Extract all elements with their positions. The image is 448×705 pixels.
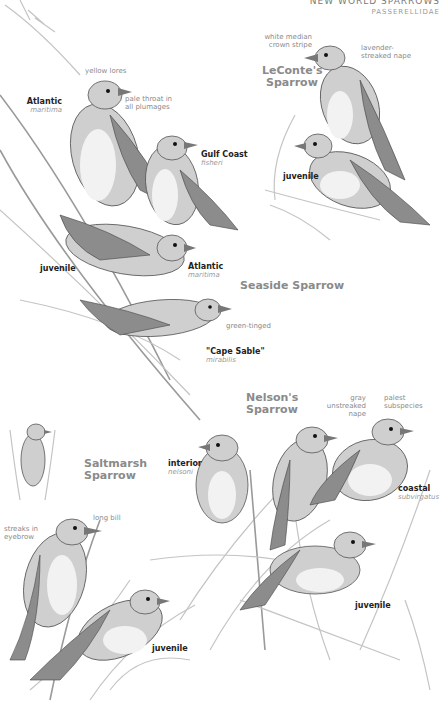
species-title-leconte: LeConte's Sparrow: [262, 65, 323, 89]
label-leconte-juvenile: juvenile: [283, 173, 319, 181]
annotation-green-tinged: green-tinged: [226, 322, 271, 330]
bird-saltmarsh-small: [10, 424, 55, 500]
annotation-palest-subspecies: palest subspecies: [384, 394, 423, 410]
label-seaside-cape-sable: "Cape Sable" mirabilis: [206, 348, 265, 364]
label-seaside-atlantic-2: Atlantic maritima: [188, 263, 223, 279]
annotation-long-bill: long bill: [93, 514, 121, 522]
annotation-streaks-eyebrow: streaks in eyebrow: [4, 525, 38, 541]
annotation-crown-stripe: white median crown stripe: [262, 33, 312, 49]
annotation-pale-throat: pale throat in all plumages: [125, 95, 172, 111]
family-title: NEW WORLD SPARROWS: [310, 0, 440, 6]
field-guide-plate: NEW WORLD SPARROWS PASSERELLIDAE LeConte…: [0, 0, 448, 705]
label-seaside-atlantic-1: Atlantic maritima: [20, 98, 62, 114]
bird-nelson-interior: [196, 435, 248, 523]
label-seaside-gulf-coast: Gulf Coast fisheri: [201, 151, 248, 167]
label-nelson-juvenile: juvenile: [355, 602, 391, 610]
annotation-gray-nape: gray unstreaked nape: [322, 394, 366, 418]
annotation-yellow-lores: yellow lores: [85, 67, 126, 75]
label-saltmarsh-juvenile: juvenile: [152, 645, 188, 653]
species-title-seaside: Seaside Sparrow: [240, 280, 344, 292]
label-nelson-interior: interior nelsoni: [168, 460, 202, 476]
label-nelson-coastal: coastal subvirgatus: [398, 485, 439, 501]
annotation-lavender-nape: lavender- streaked nape: [361, 44, 411, 60]
label-seaside-juvenile: juvenile: [40, 265, 76, 273]
bird-nelson-juvenile: [240, 532, 376, 610]
species-title-nelson: Nelson's Sparrow: [246, 392, 298, 416]
species-title-saltmarsh: Saltmarsh Sparrow: [84, 458, 147, 482]
family-latin-name: PASSERELLIDAE: [371, 8, 440, 16]
